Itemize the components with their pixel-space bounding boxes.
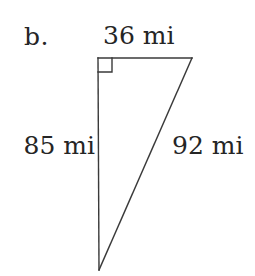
triangle-left-side [98, 58, 99, 270]
part-label: b. [24, 24, 49, 49]
triangle-hypotenuse [99, 58, 192, 270]
right-angle-marker-icon [98, 58, 112, 72]
hypotenuse-label: 92 mi [172, 133, 243, 158]
top-side-label: 36 mi [103, 23, 174, 48]
left-side-label: 85 mi [24, 133, 95, 158]
figure-canvas: b. 36 mi 85 mi 92 mi [0, 0, 255, 276]
